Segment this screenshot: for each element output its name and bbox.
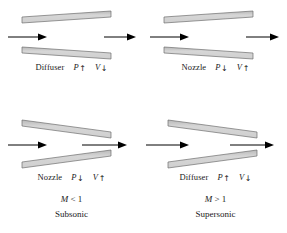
lower-wall (164, 47, 253, 59)
device-name-label: Diffuser (35, 62, 64, 72)
lower-wall (168, 150, 257, 168)
panel-label-top-left: DiffuserP↑V↓ (0, 62, 143, 72)
velocity-symbol: V (93, 172, 98, 182)
velocity-arrow-icon: ↓ (245, 174, 252, 183)
device-name-label: Diffuser (179, 172, 208, 182)
mach-caption-right: M > 1 (144, 194, 287, 204)
inlet-flow-arrow (8, 142, 47, 149)
pressure-arrow-icon: ↓ (221, 64, 228, 73)
velocity-symbol: V (239, 172, 244, 182)
velocity-arrow-icon: ↑ (243, 64, 250, 73)
outlet-flow-arrow (82, 142, 127, 149)
lower-wall (22, 47, 111, 59)
pressure-symbol: P (73, 62, 78, 72)
mach-relation: > 1 (214, 194, 226, 204)
upper-wall (22, 120, 111, 138)
velocity-symbol: V (237, 62, 242, 72)
device-name-label: Nozzle (182, 62, 207, 72)
pressure-arrow-icon: ↓ (77, 174, 84, 183)
velocity-symbol: V (95, 62, 100, 72)
inlet-flow-arrow (8, 34, 47, 41)
panel-top-left: DiffuserP↑V↓ (0, 2, 143, 112)
nozzle-diffuser-figure: DiffuserP↑V↓ NozzleP↓ (0, 0, 287, 233)
outlet-flow-arrow (104, 34, 136, 41)
mach-symbol: M (61, 194, 69, 204)
panel-bottom-right: DiffuserP↑V↓ M > 1 Supersonic (144, 112, 287, 222)
outlet-flow-arrow (230, 142, 274, 149)
upper-wall (164, 11, 253, 23)
upper-wall (22, 11, 111, 23)
regime-caption-left: Subsonic (0, 209, 143, 219)
outlet-flow-arrow (246, 34, 279, 41)
upper-wall (168, 120, 257, 138)
pressure-symbol: P (215, 62, 220, 72)
panel-top-right: NozzleP↓V↑ (144, 2, 287, 112)
pressure-symbol: P (217, 172, 222, 182)
panel-label-bottom-left: NozzleP↓V↑ (0, 172, 143, 182)
device-name-label: Nozzle (38, 172, 63, 182)
velocity-arrow-icon: ↑ (99, 174, 106, 183)
mach-symbol: M (205, 194, 213, 204)
velocity-arrow-icon: ↓ (101, 64, 108, 73)
panel-label-bottom-right: DiffuserP↑V↓ (144, 172, 287, 182)
pressure-arrow-icon: ↑ (79, 64, 86, 73)
pressure-arrow-icon: ↑ (223, 174, 230, 183)
pressure-symbol: P (71, 172, 76, 182)
panel-bottom-left: NozzleP↓V↑ M < 1 Subsonic (0, 112, 143, 222)
regime-caption-right: Supersonic (144, 209, 287, 219)
lower-wall (22, 150, 111, 168)
inlet-flow-arrow (150, 34, 189, 41)
mach-relation: < 1 (70, 194, 82, 204)
mach-caption-left: M < 1 (0, 194, 143, 204)
inlet-flow-arrow (146, 142, 189, 149)
panel-label-top-right: NozzleP↓V↑ (144, 62, 287, 72)
